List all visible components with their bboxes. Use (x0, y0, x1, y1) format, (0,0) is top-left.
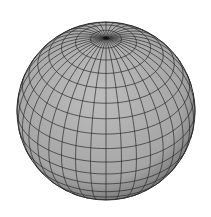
north-pole (103, 37, 109, 40)
sphere-mesh (17, 22, 195, 200)
sphere-figure (0, 0, 211, 217)
